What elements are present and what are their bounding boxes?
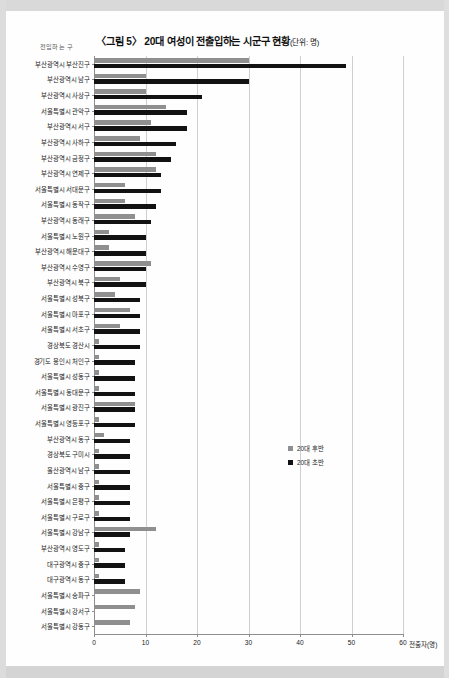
legend-item: 20대 후반 <box>288 444 324 453</box>
bar-early20s <box>94 392 135 397</box>
y-axis-label: 울산광역시 남구 <box>47 465 90 474</box>
y-axis-label: 서울특별시 서대문구 <box>35 184 90 193</box>
y-axis-label: 서울특별시 성동구 <box>41 372 90 381</box>
bar-early20s <box>94 407 135 412</box>
bar-late20s <box>94 574 99 579</box>
legend-label: 20대 후반 <box>297 444 324 453</box>
chart-row: 대구광역시 중구 <box>94 556 403 572</box>
chart-row: 서울특별시 송파구 <box>94 587 403 603</box>
x-axis-tick-60 <box>403 634 404 637</box>
scan-edge-left <box>0 0 6 678</box>
chart-row: 서울특별시 서초구 <box>94 322 403 338</box>
scan-edge-top <box>0 0 449 11</box>
bar-late20s <box>94 152 156 157</box>
y-axis-label: 서울특별시 마포구 <box>41 309 90 318</box>
bar-early20s <box>94 501 130 506</box>
y-axis-label: 서울특별시 강남구 <box>41 528 90 537</box>
bar-early20s <box>94 548 125 553</box>
bar-early20s <box>94 345 140 350</box>
chart-row: 부산광역시 북구 <box>94 275 403 291</box>
bar-early20s <box>94 579 125 584</box>
y-axis-tick <box>92 611 95 612</box>
chart-row: 서울특별시 성동구 <box>94 368 403 384</box>
x-axis-tick-label: 50 <box>348 639 355 646</box>
bar-late20s <box>94 464 99 469</box>
bar-early20s <box>94 110 187 115</box>
x-axis-tick-10 <box>146 634 147 637</box>
bar-late20s <box>94 277 120 282</box>
bar-late20s <box>94 511 99 516</box>
bar-early20s <box>94 64 346 69</box>
y-axis-label: 서울특별시 구로구 <box>41 512 90 521</box>
bar-early20s <box>94 282 146 287</box>
y-axis-label: 부산광역시 수영구 <box>41 262 90 271</box>
bar-late20s <box>94 214 135 219</box>
chart-row: 경기도 용인시 처인구 <box>94 353 403 369</box>
gridline-60 <box>403 56 404 634</box>
chart-row: 부산광역시 사하구 <box>94 134 403 150</box>
y-axis-label: 서울특별시 강서구 <box>41 606 90 615</box>
bar-early20s <box>94 298 140 303</box>
y-axis-label: 부산광역시 동구 <box>47 434 90 443</box>
chart-row: 부산광역시 수영구 <box>94 259 403 275</box>
scan-edge-right <box>444 0 449 678</box>
chart-legend: 20대 후반20대 초반 <box>288 444 324 471</box>
scanned-page: 전입하는 구 〈그림 5〉 20대 여성이 전출입하는 시군구 현황(단위: 명… <box>0 0 449 678</box>
x-axis-tick-30 <box>249 634 250 637</box>
chart-row: 서울특별시 서대문구 <box>94 181 403 197</box>
plot-area: 부산광역시 부산진구부산광역시 남구부산광역시 사상구서울특별시 관악구부산광역… <box>94 56 403 634</box>
y-axis-label: 부산광역시 서구 <box>47 122 90 131</box>
x-axis-tick-label: 20 <box>193 639 200 646</box>
bar-early20s <box>94 142 176 147</box>
x-axis-tick-label: 60 <box>399 639 406 646</box>
y-axis-label: 서울특별시 서초구 <box>41 325 90 334</box>
chart-row: 부산광역시 서구 <box>94 118 403 134</box>
chart-row: 부산광역시 연제구 <box>94 165 403 181</box>
chart-row: 서울특별시 중구 <box>94 478 403 494</box>
y-axis-label: 서울특별시 동작구 <box>41 200 90 209</box>
bar-late20s <box>94 136 140 141</box>
chart-row: 서울특별시 영등포구 <box>94 415 403 431</box>
bar-late20s <box>94 167 156 172</box>
y-axis-label: 대구광역시 동구 <box>47 575 90 584</box>
bar-late20s <box>94 245 109 250</box>
bar-late20s <box>94 120 151 125</box>
bar-early20s <box>94 204 156 209</box>
bar-late20s <box>94 558 99 563</box>
y-axis-label: 부산광역시 남구 <box>47 75 90 84</box>
bar-early20s <box>94 376 135 381</box>
chart-row: 서울특별시 동작구 <box>94 197 403 213</box>
y-axis-label: 경상북도 구미시 <box>47 450 90 459</box>
y-axis-label: 서울특별시 관악구 <box>41 106 90 115</box>
bar-early20s <box>94 563 125 568</box>
bar-late20s <box>94 589 140 594</box>
y-axis-label: 서울특별시 송파구 <box>41 590 90 599</box>
y-axis-label: 서울특별시 노원구 <box>41 231 90 240</box>
chart-row: 부산광역시 사상구 <box>94 87 403 103</box>
y-axis-label: 부산광역시 금정구 <box>41 153 90 162</box>
chart-row: 부산광역시 해운대구 <box>94 243 403 259</box>
y-axis-label: 부산광역시 사하구 <box>41 137 90 146</box>
y-axis-label: 서울특별시 성북구 <box>41 294 90 303</box>
y-axis-label: 부산광역시 동래구 <box>41 216 90 225</box>
x-axis-tick-label: 10 <box>142 639 149 646</box>
bar-late20s <box>94 433 104 438</box>
bar-early20s <box>94 360 135 365</box>
bar-late20s <box>94 620 130 625</box>
chart-row: 서울특별시 광진구 <box>94 400 403 416</box>
bar-early20s <box>94 532 130 537</box>
y-axis-title: 전입하는 구 <box>40 42 73 51</box>
bar-early20s <box>94 267 146 272</box>
chart-row: 부산광역시 동래구 <box>94 212 403 228</box>
bar-early20s <box>94 173 161 178</box>
y-axis-label: 서울특별시 중구 <box>47 481 90 490</box>
bar-early20s <box>94 79 249 84</box>
bar-early20s <box>94 439 130 444</box>
bar-rows: 부산광역시 부산진구부산광역시 남구부산광역시 사상구서울특별시 관악구부산광역… <box>94 56 403 634</box>
y-axis-label: 부산광역시 연제구 <box>41 169 90 178</box>
y-axis-label: 서울특별시 은평구 <box>41 497 90 506</box>
chart-row: 울산광역시 남구 <box>94 462 403 478</box>
chart-row: 서울특별시 강남구 <box>94 525 403 541</box>
chart-title-unit: (단위: 명) <box>290 38 319 47</box>
bar-late20s <box>94 308 130 313</box>
